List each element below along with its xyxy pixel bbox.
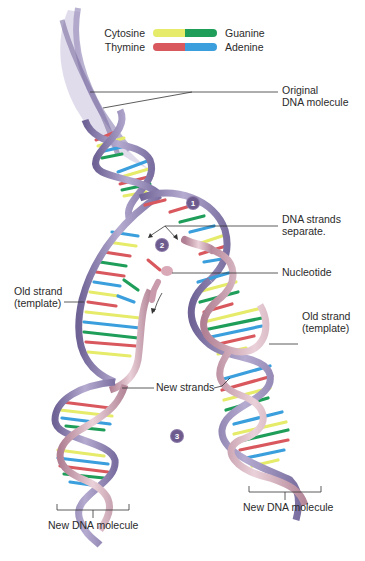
label-new-dna-right: New DNA molecule <box>243 502 333 514</box>
thymine-swatch <box>153 43 185 51</box>
legend-label-thymine: Thymine <box>101 41 145 53</box>
legend-bar-ta <box>153 43 217 51</box>
step-badge-2: 2 <box>156 239 168 251</box>
step-badge-3: 3 <box>171 430 183 442</box>
label-nucleotide: Nucleotide <box>282 267 332 279</box>
legend-row-cytosine-guanine: Cytosine Guanine <box>101 27 265 39</box>
step-badge-1: 1 <box>187 197 199 209</box>
adenine-swatch <box>185 43 217 51</box>
label-original-dna: Original DNA molecule <box>282 85 349 108</box>
label-old-strand-right: Old strand (template) <box>302 311 350 334</box>
legend-label-cytosine: Cytosine <box>101 27 145 39</box>
dna-replication-diagram: Cytosine Guanine Thymine Adenine Origina… <box>0 0 365 561</box>
label-strands-separate: DNA strands separate. <box>282 214 341 237</box>
right-arm <box>140 193 228 300</box>
legend-bar-cg <box>153 29 217 37</box>
left-arm <box>79 195 160 390</box>
label-new-strands: New strands <box>156 382 214 394</box>
legend-label-guanine: Guanine <box>225 27 265 39</box>
legend-row-thymine-adenine: Thymine Adenine <box>101 41 264 53</box>
legend-label-adenine: Adenine <box>225 41 264 53</box>
label-old-strand-left: Old strand (template) <box>14 286 62 309</box>
cytosine-swatch <box>153 29 185 37</box>
label-new-dna-left: New DNA molecule <box>48 520 138 532</box>
guanine-swatch <box>185 29 217 37</box>
